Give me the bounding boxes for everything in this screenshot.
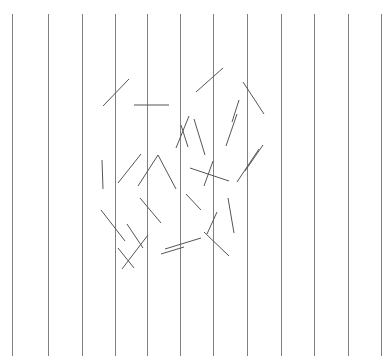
- line-seg-23: [127, 224, 143, 248]
- line-seg-09: [118, 154, 141, 183]
- line-seg-07: [226, 114, 237, 146]
- line-seg-01: [103, 79, 129, 106]
- line-seg-10: [138, 155, 158, 186]
- line-seg-17: [140, 198, 161, 223]
- line-seg-03: [196, 68, 223, 92]
- line-seg-08: [102, 160, 103, 189]
- line-seg-22: [207, 212, 217, 234]
- stimulus-canvas: [0, 0, 392, 364]
- line-seg-11: [158, 155, 176, 189]
- line-seg-13: [237, 149, 259, 182]
- line-seg-21: [228, 198, 234, 233]
- line-seg-20: [204, 232, 229, 256]
- line-seg-25: [118, 248, 134, 268]
- line-seg-06: [194, 119, 205, 155]
- vertical-grid-lines-group: [12, 14, 381, 356]
- stimulus-drawing: [0, 0, 392, 364]
- line-seg-16: [122, 235, 148, 269]
- line-seg-04: [243, 82, 264, 114]
- line-seg-18: [186, 194, 201, 210]
- line-seg-14: [245, 145, 263, 171]
- line-seg-26: [161, 247, 184, 254]
- scattered-segments-group: [101, 68, 264, 269]
- line-seg-15: [101, 210, 125, 241]
